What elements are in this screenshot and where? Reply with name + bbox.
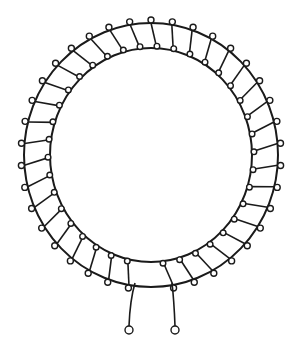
winding-inner-loop [59, 206, 65, 212]
winding-inner-loop [108, 253, 114, 259]
winding-outer-loop [22, 184, 28, 190]
winding-outer-loop [39, 225, 45, 231]
winding-inner-loop [90, 62, 96, 68]
winding-inner-loop [124, 258, 130, 264]
winding-inner-loop [171, 46, 177, 52]
winding-outer-loop [244, 243, 250, 249]
winding-inner-loop [121, 47, 127, 53]
winding-inner-loop [249, 131, 255, 137]
terminal-icon [171, 326, 179, 334]
winding-outer-loop [267, 97, 273, 103]
winding-outer-loop [257, 225, 263, 231]
winding-inner-loop [247, 184, 253, 190]
winding-inner-loop [216, 70, 222, 76]
winding-outer-loop [274, 184, 280, 190]
winding-outer-loop [29, 205, 35, 211]
toroidal-coil-diagram [0, 0, 302, 347]
winding-inner-loop [207, 241, 213, 247]
winding-outer-loop [191, 279, 197, 285]
winding-inner-loop [220, 230, 226, 236]
winding-inner-loop [57, 102, 63, 108]
winding-outer-loop [105, 279, 111, 285]
winding-outer-loop [29, 97, 35, 103]
winding-outer-loop [210, 33, 216, 39]
winding-inner-loop [237, 98, 243, 104]
winding-inner-loop [231, 216, 237, 222]
winding-inner-loop [137, 44, 143, 50]
winding-inner-loop [187, 51, 193, 57]
winding-outer-loop [211, 270, 217, 276]
winding-inner-loop [93, 244, 99, 250]
winding-inner-loop [202, 59, 208, 65]
terminal-icon [125, 326, 133, 334]
winding-inner-loop [77, 74, 83, 80]
winding-outer-loop [85, 270, 91, 276]
winding-inner-loop [228, 83, 234, 89]
winding-inner-loop [80, 234, 86, 240]
winding-inner-loop [105, 53, 111, 59]
winding-inner-loop [154, 43, 160, 49]
winding-outer-loop [18, 162, 24, 168]
winding-inner-loop [160, 260, 166, 266]
winding-outer-loop [148, 17, 154, 23]
winding-outer-loop [278, 162, 284, 168]
winding-outer-loop [22, 118, 28, 124]
winding-inner-loop [193, 251, 199, 257]
winding-outer-loop [243, 60, 249, 66]
winding-outer-loop [169, 19, 175, 25]
winding-inner-loop [47, 172, 53, 178]
winding-outer-loop [267, 205, 273, 211]
winding-inner-loop [250, 167, 256, 173]
winding-inner-loop [68, 221, 74, 227]
winding-outer-loop [125, 285, 131, 291]
coil-windings [18, 17, 283, 291]
winding-outer-loop [18, 140, 24, 146]
winding-outer-loop [53, 60, 59, 66]
winding-inner-loop [245, 114, 251, 120]
winding-inner-loop [50, 119, 56, 125]
winding-inner-loop [177, 257, 183, 263]
winding-outer-loop [278, 140, 284, 146]
toroid-illustration [0, 0, 302, 347]
winding-outer-loop [52, 243, 58, 249]
winding-outer-loop [127, 19, 133, 25]
winding-outer-loop [67, 258, 73, 264]
winding-outer-loop [86, 33, 92, 39]
core-outer-edge [24, 23, 278, 287]
coil-leads [125, 283, 179, 334]
winding-outer-loop [39, 78, 45, 84]
winding-outer-loop [190, 24, 196, 30]
winding-inner-loop [45, 154, 51, 160]
winding-outer-loop [229, 258, 235, 264]
winding-inner-loop [240, 201, 246, 207]
winding-inner-loop [66, 87, 72, 93]
winding-outer-loop [274, 118, 280, 124]
winding-inner-loop [46, 136, 52, 142]
winding-outer-loop [171, 285, 177, 291]
winding-outer-loop [228, 45, 234, 51]
winding-inner-loop [51, 190, 57, 196]
winding-outer-loop [68, 45, 74, 51]
winding-outer-loop [106, 24, 112, 30]
winding-outer-loop [257, 78, 263, 84]
winding-inner-loop [251, 149, 257, 155]
